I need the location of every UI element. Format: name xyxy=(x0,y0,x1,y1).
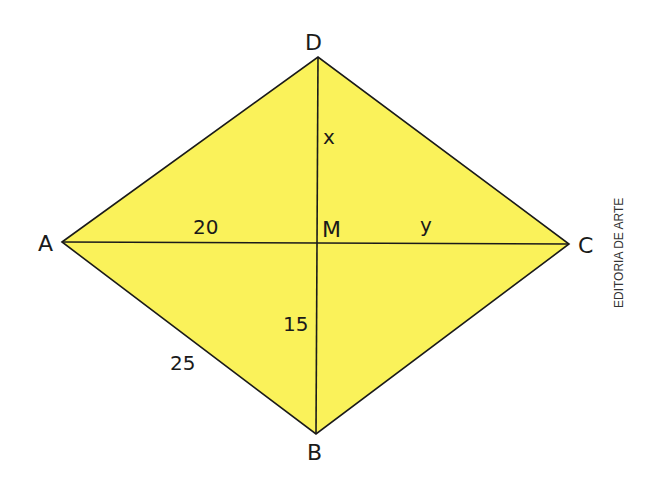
segment-label-AM: 20 xyxy=(193,215,218,239)
rhombus-diagram: D A C B M 20 y x 15 25 EDITORIA DE ARTE xyxy=(0,0,657,486)
credit-text: EDITORIA DE ARTE xyxy=(612,198,626,308)
segment-label-AB: 25 xyxy=(170,351,195,375)
segment-label-DM: x xyxy=(323,125,335,149)
vertex-label-C: C xyxy=(578,233,593,258)
vertex-label-D: D xyxy=(305,30,322,55)
segment-label-MC: y xyxy=(420,213,432,237)
vertex-label-B: B xyxy=(307,440,322,465)
segment-label-MB: 15 xyxy=(283,312,308,336)
vertex-label-A: A xyxy=(38,231,53,256)
center-label-M: M xyxy=(322,217,341,242)
